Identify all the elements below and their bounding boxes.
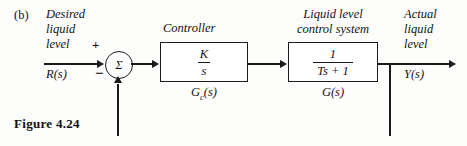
plant-header: Liquid level control system [285,7,381,37]
controller-sublabel-main: G [191,85,200,99]
controller-denominator: s [198,62,211,78]
plant-header-line-1: Liquid level [285,7,381,22]
controller-header: Controller [163,22,215,35]
plant-denominator: Ts + 1 [313,62,353,78]
summing-junction: Σ [105,51,133,79]
input-signal-symbol: R(s) [46,68,67,81]
controller-sublabel: Gc(s) [160,85,248,102]
summing-junction-plus-sign: + [92,38,99,52]
wire-error-signal [131,63,153,65]
part-label: (b) [14,9,29,22]
figure-caption: Figure 4.24 [14,117,80,131]
summing-junction-minus-sign: − [95,66,104,81]
plant-transfer-function: 1 Ts + 1 [313,47,353,78]
wire-controller-to-plant [248,63,281,65]
input-signal-line-2: liquid [46,22,85,37]
figure-block-diagram: (b) Desired liquid level R(s) + − Σ Cont… [0,0,467,146]
plant-sublabel: G(s) [288,85,378,102]
wire-feedback-takeoff [389,63,391,136]
controller-sublabel-tail: (s) [204,85,217,99]
plant-block: 1 Ts + 1 [288,42,378,82]
output-signal-line-2: liquid [404,22,437,37]
arrowhead-plant-input [280,60,287,68]
input-signal-line-3: level [46,37,85,52]
output-signal-label: Actual liquid level [404,7,437,52]
input-signal-label: Desired liquid level [46,7,85,52]
output-signal-symbol: Y(s) [404,68,424,81]
output-signal-line-3: level [404,37,437,52]
controller-numerator: K [196,47,212,62]
arrowhead-output [449,60,456,68]
arrowhead-controller-input [152,60,159,68]
wire-input [44,63,98,65]
plant-numerator: 1 [326,47,340,62]
arrowhead-feedback-into-junction [114,76,122,83]
plant-header-line-2: control system [285,22,381,37]
plant-sublabel-tail: (s) [331,85,344,99]
output-signal-line-1: Actual [404,7,437,22]
input-signal-line-1: Desired [46,7,85,22]
controller-transfer-function: K s [196,47,212,78]
wire-feedback-return [117,84,119,136]
controller-block: K s [160,42,248,82]
plant-sublabel-main: G [322,85,331,99]
